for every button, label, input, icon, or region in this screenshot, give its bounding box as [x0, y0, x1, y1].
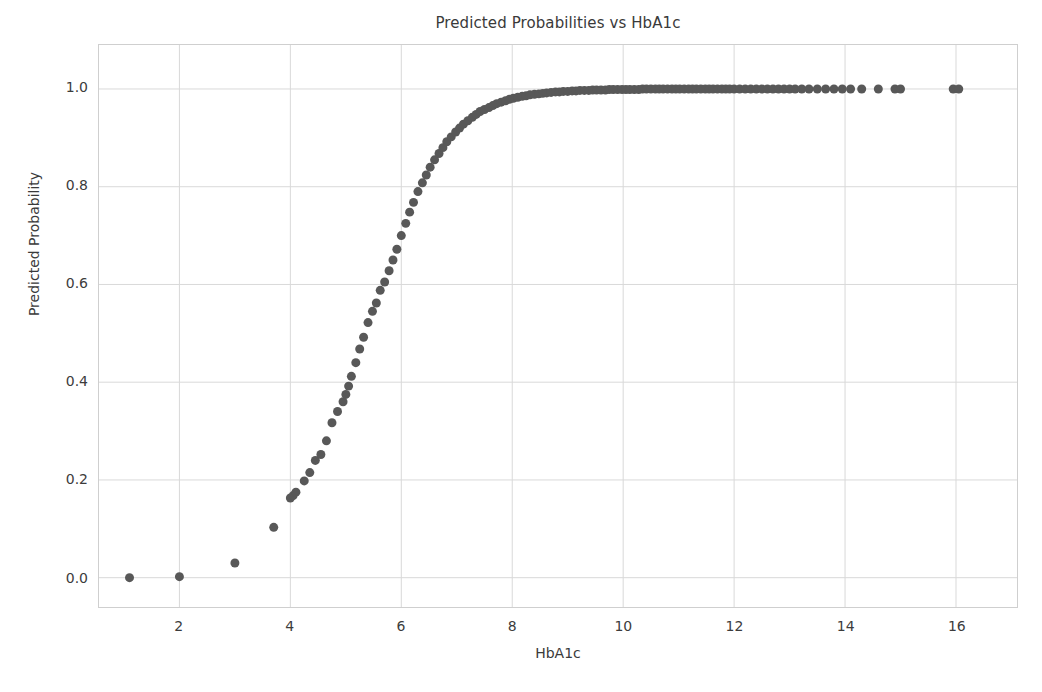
scatter-point[interactable]	[300, 476, 309, 485]
figure-canvas: Predicted Probabilities vs HbA1c 0.00.20…	[0, 0, 1042, 692]
y-axis-label: Predicted Probability	[26, 154, 42, 334]
scatter-point[interactable]	[413, 187, 422, 196]
scatter-point[interactable]	[857, 84, 866, 93]
scatter-point[interactable]	[846, 84, 855, 93]
x-tick-label: 10	[593, 618, 653, 634]
scatter-point[interactable]	[344, 382, 353, 391]
scatter-point[interactable]	[355, 344, 364, 353]
scatter-point[interactable]	[269, 523, 278, 532]
scatter-point[interactable]	[388, 256, 397, 265]
scatter-point[interactable]	[359, 333, 368, 342]
x-axis-label: HbA1c	[98, 645, 1018, 661]
scatter-point[interactable]	[896, 84, 905, 93]
scatter-points-layer[interactable]	[99, 45, 1017, 607]
scatter-point[interactable]	[821, 84, 830, 93]
scatter-point[interactable]	[368, 307, 377, 316]
scatter-point[interactable]	[805, 84, 814, 93]
x-tick-label: 16	[927, 618, 987, 634]
scatter-point[interactable]	[397, 231, 406, 240]
scatter-point[interactable]	[291, 488, 300, 497]
scatter-point[interactable]	[385, 266, 394, 275]
scatter-point[interactable]	[422, 171, 431, 180]
scatter-point[interactable]	[351, 358, 360, 367]
scatter-point[interactable]	[380, 278, 389, 287]
scatter-point[interactable]	[305, 468, 314, 477]
x-tick-label: 8	[482, 618, 542, 634]
y-tick-label: 0.2	[28, 471, 88, 487]
scatter-point[interactable]	[230, 559, 239, 568]
scatter-point[interactable]	[175, 572, 184, 581]
scatter-point[interactable]	[125, 573, 134, 582]
scatter-point[interactable]	[333, 407, 342, 416]
scatter-point[interactable]	[322, 436, 331, 445]
x-tick-label: 2	[149, 618, 209, 634]
x-tick-label: 12	[704, 618, 764, 634]
x-tick-label: 6	[371, 618, 431, 634]
scatter-point[interactable]	[829, 84, 838, 93]
scatter-point[interactable]	[405, 208, 414, 217]
scatter-point[interactable]	[813, 84, 822, 93]
chart-title: Predicted Probabilities vs HbA1c	[98, 14, 1018, 32]
scatter-point[interactable]	[372, 299, 381, 308]
y-tick-label: 1.0	[28, 79, 88, 95]
scatter-point[interactable]	[341, 390, 350, 399]
scatter-point[interactable]	[401, 219, 410, 228]
scatter-point[interactable]	[392, 245, 401, 254]
scatter-point[interactable]	[316, 450, 325, 459]
scatter-point[interactable]	[954, 84, 963, 93]
x-tick-label: 14	[816, 618, 876, 634]
scatter-point[interactable]	[364, 318, 373, 327]
scatter-point[interactable]	[874, 84, 883, 93]
x-tick-label: 4	[260, 618, 320, 634]
scatter-point[interactable]	[376, 286, 385, 295]
scatter-point[interactable]	[327, 418, 336, 427]
y-tick-label: 0.4	[28, 373, 88, 389]
scatter-point[interactable]	[838, 84, 847, 93]
scatter-point[interactable]	[409, 198, 418, 207]
scatter-point[interactable]	[418, 178, 427, 187]
plot-area	[98, 44, 1018, 608]
y-tick-label: 0.0	[28, 570, 88, 586]
scatter-point[interactable]	[347, 372, 356, 381]
